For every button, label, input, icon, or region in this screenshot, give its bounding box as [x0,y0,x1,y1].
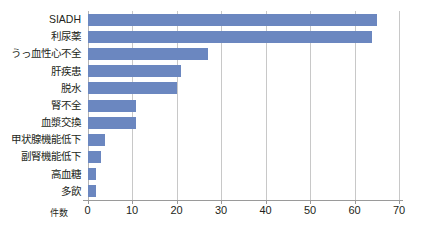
x-tick-label-40: 40 [259,204,271,216]
bar [88,117,137,129]
category-label: 血漿交換 [0,114,81,131]
category-label: 利尿薬 [0,28,81,45]
category-label: 多飲 [0,183,81,200]
x-tick-label-20: 20 [170,204,182,216]
x-tick-label-50: 50 [304,204,316,216]
category-label: 高血糖 [0,166,81,183]
bar-row [88,114,400,131]
bar-row [88,80,400,97]
x-axis-title: 件数 [50,206,68,219]
category-label: 脱水 [0,80,81,97]
category-label: 肝疾患 [0,63,81,80]
category-label: うっ血性心不全 [0,45,81,62]
bar [88,31,373,43]
gridline-70 [399,11,400,200]
bar [88,65,181,77]
category-label: SIADH [0,11,81,28]
bar [88,82,177,94]
bar [88,134,106,146]
bar-row [88,28,400,45]
category-label: 副腎機能低下 [0,148,81,165]
x-tick-label-70: 70 [393,204,405,216]
bar-row [88,166,400,183]
x-tick-label-30: 30 [215,204,227,216]
bar [88,14,377,26]
category-label: 甲状腺機能低下 [0,131,81,148]
category-axis: SIADH利尿薬うっ血性心不全肝疾患脱水腎不全血漿交換甲状腺機能低下副腎機能低下… [0,11,84,200]
bar-chart: SIADH利尿薬うっ血性心不全肝疾患脱水腎不全血漿交換甲状腺機能低下副腎機能低下… [0,0,421,236]
bar-row [88,183,400,200]
plot-area [88,11,400,200]
bar-row [88,11,400,28]
x-tick-label-60: 60 [348,204,360,216]
bar-row [88,97,400,114]
bar-row [88,45,400,62]
category-label: 腎不全 [0,97,81,114]
bar-row [88,148,400,165]
bar [88,185,97,197]
bar [88,48,208,60]
bar [88,100,137,112]
bar-row [88,131,400,148]
bar [88,151,101,163]
x-tick-label-10: 10 [126,204,138,216]
bar-row [88,63,400,80]
x-tick-label-0: 0 [84,204,90,216]
bar [88,168,97,180]
